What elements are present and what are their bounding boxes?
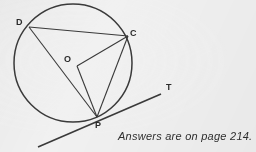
answers-note: Answers are on page 214. [118, 130, 252, 142]
label-point-c: C [130, 29, 137, 38]
figure-page: D C O P T Answers are on page 214. [0, 0, 256, 152]
segment-cp [97, 36, 128, 117]
label-point-d: D [16, 18, 23, 27]
label-center-o: O [64, 55, 71, 64]
circle-shape [14, 4, 132, 122]
segment-oc [77, 36, 128, 66]
segment-dc [29, 27, 128, 36]
segment-op [77, 66, 97, 117]
segment-dp [29, 27, 97, 117]
label-tangent-t: T [166, 83, 172, 92]
label-point-p: P [95, 121, 101, 130]
